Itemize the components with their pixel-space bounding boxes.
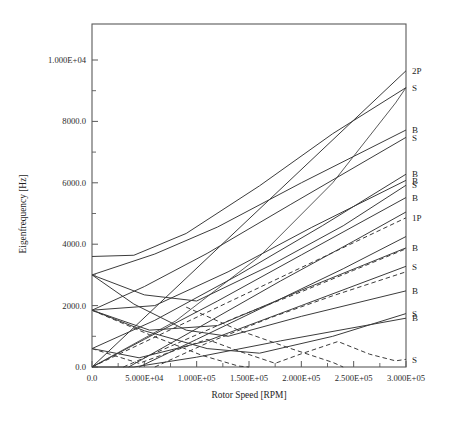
- curve-label-13-b: B: [412, 313, 418, 323]
- curve-S-9650-top: [92, 88, 406, 257]
- curve-label-3-s: S: [412, 133, 417, 143]
- x-tick-label: 2.000E+05: [282, 373, 320, 383]
- curve-label-10-s: S: [412, 262, 417, 272]
- y-tick-label: 4000.0: [62, 239, 86, 249]
- y-tick-label: 6000.0: [62, 178, 86, 188]
- curve-solid-rise-low-a: [139, 237, 406, 367]
- y-axis-ticks: [92, 60, 98, 367]
- y-tick-label: 8000.0: [62, 116, 86, 126]
- curve-label-14-s: S: [412, 355, 417, 365]
- x-axis-title: Rotor Speed [RPM]: [212, 390, 287, 400]
- curve-label-0-2p: 2P: [412, 66, 422, 76]
- campbell-diagram-svg: 0.02000.04000.06000.08000.01.000E+04 0.0…: [0, 0, 450, 422]
- curve-dashed-descend-b: [186, 307, 343, 367]
- y-axis-tick-labels: 0.02000.04000.06000.08000.01.000E+04: [48, 55, 87, 372]
- curve-group: [92, 71, 406, 367]
- plot-frame: [92, 24, 406, 367]
- x-tick-label: 3.000E+05: [387, 373, 425, 383]
- curve-label-6-s: S: [412, 180, 417, 190]
- curve-label-group: 2PSBSBBSB1PBSBSBS: [412, 66, 422, 365]
- x-tick-label: 5.000E+04: [125, 373, 164, 383]
- curve-label-7-b: B: [412, 193, 418, 203]
- curve-2P: [92, 71, 406, 367]
- y-tick-label: 1.000E+04: [48, 55, 87, 65]
- y-tick-label: 2000.0: [62, 301, 86, 311]
- curve-dashed-cross-b: [155, 272, 406, 367]
- curve-dashed-ascend-a: [123, 249, 406, 367]
- x-tick-label: 1.000E+05: [178, 373, 216, 383]
- campbell-diagram-figure: 0.02000.04000.06000.08000.01.000E+04 0.0…: [0, 0, 450, 422]
- x-axis-tick-labels: 0.05.000E+041.000E+051.500E+052.000E+052…: [87, 373, 425, 383]
- x-tick-label: 0.0: [87, 373, 98, 383]
- curve-label-8-1p: 1P: [412, 213, 422, 223]
- curve-label-11-b: B: [412, 286, 418, 296]
- curve-B-6100: [92, 180, 406, 310]
- curve-B-5550: [92, 198, 406, 367]
- x-tick-label: 1.500E+05: [230, 373, 268, 383]
- y-axis-title: Eigenfrequency [Hz]: [18, 175, 28, 254]
- curve-label-1-s: S: [412, 83, 417, 93]
- x-tick-label: 2.500E+05: [335, 373, 373, 383]
- curve-label-9-b: B: [412, 243, 418, 253]
- y-tick-label: 0.0: [75, 362, 86, 372]
